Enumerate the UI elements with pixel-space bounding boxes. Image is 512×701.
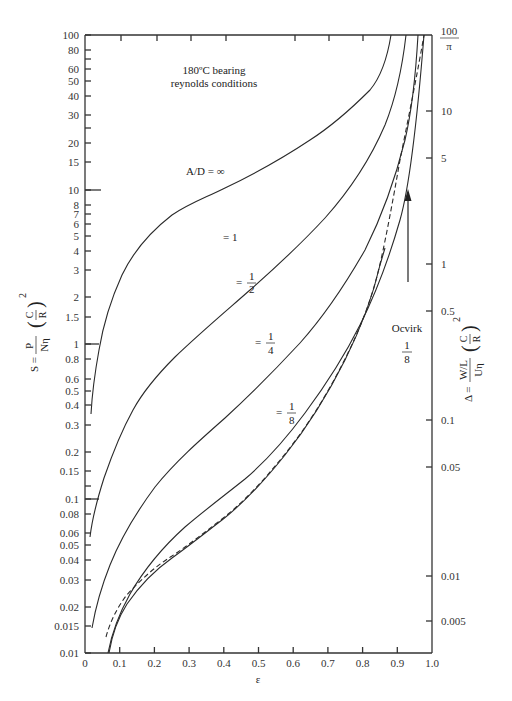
y-left-tick-label: 0.15 — [60, 465, 80, 477]
svg-text:R: R — [471, 335, 482, 342]
svg-text:8: 8 — [289, 414, 295, 426]
svg-text:2: 2 — [249, 283, 255, 295]
chart-title-line2: reynolds conditions — [171, 77, 257, 89]
y-left-tick-label: 0.04 — [60, 554, 80, 566]
svg-text:): ) — [458, 325, 481, 332]
label-ocvirk: Ocvirk 1 8 — [392, 322, 423, 365]
y-right-tick-label: 1 — [441, 258, 447, 270]
y-right-tick-label: 0.1 — [441, 414, 455, 426]
label-ad-quarter: = 1 4 — [255, 330, 275, 356]
svg-text:(: ( — [24, 321, 47, 328]
y-left-tick-label: 6 — [74, 218, 80, 230]
y-left-tick-label: 100 — [63, 29, 80, 41]
curve-ad-half — [92, 35, 418, 628]
y-right-tick-label: 10 — [441, 105, 453, 117]
x-axis-ticks: 00.10.20.30.40.50.60.70.80.91.0 — [82, 647, 439, 669]
x-tick-label: 0 — [82, 657, 88, 669]
y-left-tick-label: 60 — [68, 63, 80, 75]
y-left-tick-label: 4 — [74, 245, 80, 257]
y-left-tick-label: 80 — [68, 44, 80, 56]
label-ad-1: = 1 — [223, 231, 237, 243]
y-left-tick-label: 1 — [74, 338, 80, 350]
x-tick-label: 0.4 — [217, 657, 231, 669]
svg-text:1: 1 — [249, 270, 255, 282]
y-right-tick-label: 0.005 — [441, 615, 466, 627]
chart-title-line1: 180ºC bearing — [183, 64, 246, 76]
y-left-tick-label: 0.8 — [65, 353, 79, 365]
x-tick-label: 0.6 — [286, 657, 300, 669]
x-tick-label: 0.2 — [148, 657, 162, 669]
svg-text:C: C — [458, 335, 469, 342]
top-axis-ticks — [121, 35, 363, 41]
y-right-tick-label: 0.01 — [441, 570, 460, 582]
svg-text:=: = — [255, 336, 261, 348]
x-axis-label: ε — [256, 673, 261, 685]
svg-text:8: 8 — [404, 353, 410, 365]
y-left-tick-label: 0.01 — [60, 647, 79, 659]
svg-text:1: 1 — [289, 400, 295, 412]
x-tick-label: 0.9 — [390, 657, 404, 669]
y-left-tick-label: 0.03 — [60, 574, 80, 586]
curve-ad-eighth — [109, 248, 385, 653]
y-left-tick-label: 50 — [68, 75, 80, 87]
x-tick-label: 0.3 — [182, 657, 196, 669]
y-left-tick-label: 0.02 — [60, 601, 79, 613]
x-tick-label: 0.8 — [356, 657, 370, 669]
y-left-tick-label: 0.4 — [65, 399, 79, 411]
y-left-tick-label: 15 — [68, 156, 80, 168]
svg-text:2: 2 — [451, 317, 462, 322]
y-left-tick-label: 0.6 — [65, 373, 79, 385]
y-left-tick-label: 0.3 — [65, 419, 79, 431]
svg-text:π: π — [446, 40, 452, 52]
x-tick-label: 0.7 — [321, 657, 335, 669]
curve-ad-quarter — [108, 35, 424, 653]
y-left-tick-label: 40 — [68, 90, 80, 102]
y-left-tick-label: 0.2 — [65, 446, 79, 458]
y-right-tick-label: 0.5 — [441, 305, 455, 317]
y-left-tick-label: 1.5 — [65, 311, 79, 323]
svg-text:1: 1 — [404, 339, 410, 351]
y-left-tick-label: 0.06 — [60, 527, 80, 539]
svg-text:Uη: Uη — [472, 363, 484, 377]
svg-text:C: C — [24, 311, 35, 318]
svg-text:Ocvirk: Ocvirk — [392, 322, 423, 334]
svg-text:1: 1 — [268, 330, 274, 342]
svg-text:R: R — [37, 311, 48, 318]
y-left-tick-label: 5 — [74, 230, 80, 242]
y-right-tick-label: 0.05 — [441, 461, 461, 473]
x-tick-label: 0.5 — [252, 657, 266, 669]
y-left-tick-label: 0.5 — [65, 385, 79, 397]
y-left-tick-label: 3 — [74, 264, 80, 276]
curve-ad-1 — [90, 35, 406, 537]
svg-text:P: P — [23, 343, 35, 349]
svg-text:Δ =: Δ = — [462, 387, 474, 402]
y-left-tick-label: 0.015 — [54, 620, 79, 632]
svg-text:2: 2 — [17, 293, 28, 298]
svg-text:=: = — [236, 276, 242, 288]
svg-text:100: 100 — [441, 25, 458, 37]
y-left-tick-label: 2 — [74, 291, 80, 303]
left-y-axis-title: S = P Nη ( C R ) 2 — [17, 293, 50, 372]
svg-text:Nη: Nη — [38, 338, 50, 352]
y-left-tick-label: 0.1 — [65, 493, 79, 505]
y-left-tick-label: 0.05 — [60, 539, 80, 551]
x-tick-label: 0.1 — [113, 657, 127, 669]
svg-text:W/L: W/L — [457, 360, 469, 380]
right-axis-top-label: 100 π — [440, 25, 459, 52]
svg-text:=: = — [276, 406, 282, 418]
curve-ocvirk-eighth — [106, 35, 424, 637]
right-y-axis-title: Δ = W/L Uη ( C R ) 2 — [451, 317, 484, 402]
label-ad-half: = 1 2 — [236, 270, 256, 295]
svg-text:): ) — [24, 301, 47, 308]
label-ad-infinity: A/D = ∞ — [186, 165, 225, 177]
y-right-tick-label: 5 — [441, 152, 447, 164]
bearing-chart: 00.10.20.30.40.50.60.70.80.91.0 10080605… — [0, 0, 512, 701]
x-tick-label: 1.0 — [425, 657, 439, 669]
y-left-tick-label: 0.08 — [60, 508, 80, 520]
label-ad-eighth: = 1 8 — [276, 400, 296, 426]
y-left-tick-label: 30 — [68, 109, 80, 121]
svg-text:(: ( — [458, 345, 481, 352]
svg-text:4: 4 — [268, 344, 274, 356]
y-left-tick-label: 20 — [68, 137, 80, 149]
svg-text:S =: S = — [28, 357, 40, 372]
